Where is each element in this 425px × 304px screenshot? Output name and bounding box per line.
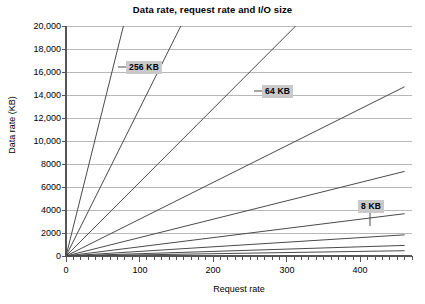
annotation-64kb: 64 KB: [262, 85, 293, 98]
annotation-8kb: 8 KB: [358, 200, 384, 213]
annotation-leader-lines: [118, 67, 370, 226]
annotation-256kb: 256 KB: [126, 61, 162, 74]
chart-container: Data rate, request rate and I/O size Dat…: [0, 0, 425, 304]
plot-area: [0, 0, 425, 304]
